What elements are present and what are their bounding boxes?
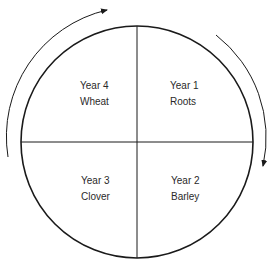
quadrant-top-left: Year 4 Wheat: [80, 80, 109, 107]
quadrant-year-label: Year 3: [81, 175, 110, 186]
quadrant-crop-label: Roots: [170, 96, 196, 107]
quadrant-crop-label: Barley: [171, 191, 199, 202]
quadrant-bottom-left: Year 3 Clover: [81, 175, 111, 202]
quadrant-crop-label: Wheat: [80, 96, 109, 107]
quadrant-crop-label: Clover: [81, 191, 111, 202]
quadrant-top-right: Year 1 Roots: [170, 80, 199, 107]
quadrant-year-label: Year 1: [170, 80, 199, 91]
quadrant-bottom-right: Year 2 Barley: [171, 175, 200, 202]
right-arc-arrow-icon: [216, 35, 266, 166]
crop-rotation-diagram: Year 4 Wheat Year 1 Roots Year 3 Clover …: [0, 0, 270, 264]
quadrant-year-label: Year 4: [80, 80, 109, 91]
quadrant-year-label: Year 2: [171, 175, 200, 186]
